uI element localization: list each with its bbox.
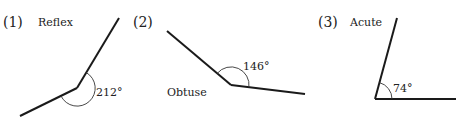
figure-2-angle-label: 146° [243, 60, 270, 73]
figure-obtuse: (2) 146° Obtuse [133, 14, 305, 99]
figure-3-angle-label: 74° [393, 82, 413, 95]
figure-1-type-label: Reflex [38, 16, 74, 29]
figure-reflex: (1) Reflex 212° [3, 14, 123, 116]
figure-3-index: (3) [318, 14, 338, 30]
reflex-arm-upper [77, 18, 119, 88]
obtuse-arm-left [167, 31, 231, 85]
obtuse-arm-right [231, 85, 305, 94]
figure-1-angle-label: 212° [96, 86, 123, 99]
reflex-angle-arc [61, 73, 95, 107]
figure-2-index: (2) [133, 14, 153, 30]
figure-acute: (3) Acute 74° [318, 14, 456, 99]
acute-angle-arc [380, 83, 393, 99]
reflex-arm-lower [20, 88, 77, 116]
figure-2-type-label: Obtuse [167, 86, 207, 99]
figure-3-type-label: Acute [349, 16, 382, 29]
figure-1-index: (1) [3, 14, 23, 30]
angle-types-diagram: (1) Reflex 212° (2) 146° Obtuse (3) Acut… [0, 0, 458, 117]
